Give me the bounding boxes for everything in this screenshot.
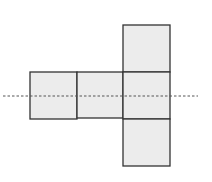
- cube-net-diagram: [0, 0, 212, 182]
- square-middle: [77, 72, 123, 118]
- square-bottom: [123, 119, 170, 166]
- square-top: [123, 25, 170, 72]
